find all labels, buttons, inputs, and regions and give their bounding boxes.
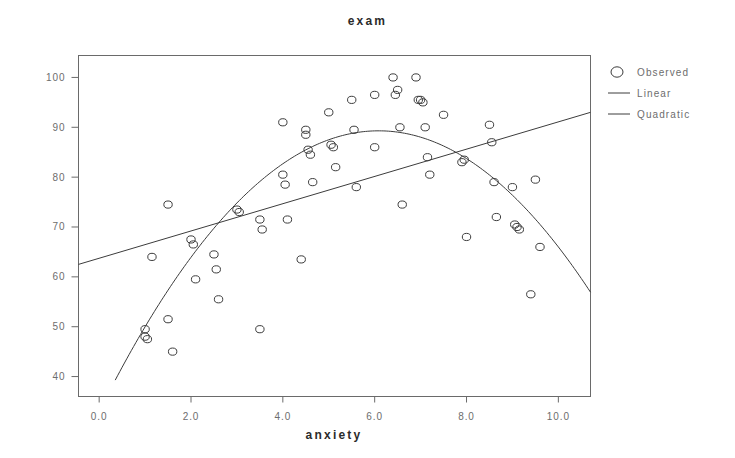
- y-tick-label-40: 40: [53, 371, 66, 382]
- x-tick-label-6.0: 6.0: [366, 411, 383, 422]
- data-point: [235, 208, 243, 215]
- data-point: [513, 223, 521, 230]
- data-point: [393, 86, 401, 93]
- data-point: [331, 164, 339, 171]
- legend-label-quadratic[interactable]: Quadratic: [637, 109, 690, 120]
- data-point: [189, 241, 197, 248]
- data-point: [233, 206, 241, 213]
- data-point: [421, 124, 429, 131]
- data-point: [416, 96, 424, 103]
- x-axis-label: anxiety: [78, 428, 590, 442]
- data-point: [258, 226, 266, 233]
- data-point: [279, 171, 287, 178]
- data-point: [327, 141, 335, 148]
- data-point: [256, 326, 264, 333]
- data-point: [302, 131, 310, 138]
- x-tick-label-8.0: 8.0: [458, 411, 475, 422]
- x-tick-label-2.0: 2.0: [183, 411, 200, 422]
- data-point: [164, 316, 172, 323]
- data-point: [370, 91, 378, 98]
- data-point: [306, 151, 314, 158]
- regression-lines: [79, 112, 591, 380]
- data-point: [350, 126, 358, 133]
- y-tick-label-100: 100: [46, 72, 65, 83]
- x-axis-tick-labels: 0.02.04.06.08.010.0: [91, 411, 570, 422]
- data-point: [458, 159, 466, 166]
- chart-figure: exam 0.02.04.06.08.010.0 405060708090100…: [0, 0, 735, 458]
- data-point: [164, 201, 172, 208]
- data-point: [143, 336, 151, 343]
- x-tick-label-10.0: 10.0: [547, 411, 570, 422]
- data-point: [308, 179, 316, 186]
- data-point: [214, 296, 222, 303]
- data-point: [398, 201, 406, 208]
- x-tick-label-4.0: 4.0: [275, 411, 292, 422]
- data-point: [148, 253, 156, 260]
- y-tick-label-90: 90: [53, 122, 66, 133]
- data-point: [348, 96, 356, 103]
- x-tick-label-0.0: 0.0: [91, 411, 108, 422]
- data-point: [187, 236, 195, 243]
- y-tick-label-50: 50: [53, 321, 66, 332]
- data-point: [212, 266, 220, 273]
- data-point: [141, 333, 149, 340]
- y-tick-label-80: 80: [53, 172, 66, 183]
- data-point: [462, 233, 470, 240]
- axes-group: 0.02.04.06.08.010.0 405060708090100: [46, 56, 590, 422]
- data-point: [389, 74, 397, 81]
- chart-legend[interactable]: ObservedLinearQuadratic: [608, 67, 690, 120]
- quadratic-fit-curve: [115, 131, 590, 380]
- data-point: [426, 171, 434, 178]
- data-point: [527, 291, 535, 298]
- data-point: [490, 179, 498, 186]
- data-point: [325, 109, 333, 116]
- y-axis-ticks: [72, 77, 79, 376]
- data-point: [281, 181, 289, 188]
- linear-fit-line: [79, 112, 591, 264]
- plot-frame: [79, 56, 591, 397]
- data-point: [256, 216, 264, 223]
- data-point: [210, 251, 218, 258]
- legend-label-observed[interactable]: Observed: [637, 67, 689, 78]
- observed-data-points: [141, 74, 544, 355]
- data-point: [531, 176, 539, 183]
- data-point: [412, 74, 420, 81]
- data-point: [168, 348, 176, 355]
- data-point: [329, 144, 337, 151]
- data-point: [279, 119, 287, 126]
- legend-marker-observed: [611, 67, 623, 77]
- y-tick-label-70: 70: [53, 221, 66, 232]
- x-axis-ticks: [99, 397, 558, 403]
- data-point: [423, 154, 431, 161]
- data-point: [508, 184, 516, 191]
- data-point: [352, 184, 360, 191]
- y-axis-tick-labels: 405060708090100: [46, 72, 65, 382]
- data-point: [283, 216, 291, 223]
- data-point: [439, 111, 447, 118]
- scatter-plot: 0.02.04.06.08.010.0 405060708090100 Obse…: [0, 0, 735, 458]
- legend-label-linear[interactable]: Linear: [637, 88, 671, 99]
- data-point: [515, 226, 523, 233]
- data-point: [485, 121, 493, 128]
- data-point: [511, 221, 519, 228]
- data-point: [370, 144, 378, 151]
- data-point: [536, 243, 544, 250]
- data-point: [492, 213, 500, 220]
- data-point: [396, 124, 404, 131]
- y-tick-label-60: 60: [53, 271, 66, 282]
- data-point: [297, 256, 305, 263]
- data-point: [191, 276, 199, 283]
- data-point: [391, 91, 399, 98]
